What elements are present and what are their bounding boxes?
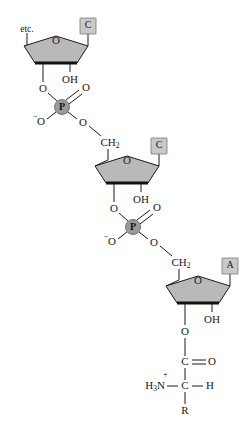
phosphate-2-ester-oxygen-upper: O (110, 202, 118, 214)
phosphate-1-bond-upper (48, 93, 57, 101)
methylene-label-3: CH2 (171, 256, 190, 270)
phosphate-2-double-bond-b (140, 214, 153, 224)
aminoacyl-carbonyl-oxygen: O (208, 355, 216, 367)
phosphate-1-double-bonded-oxygen: O (82, 81, 90, 93)
base-label-1: C (85, 19, 92, 30)
phosphate-2-double-bond-a (137, 210, 150, 220)
phosphate-1-group: O P O − O O (33, 81, 101, 136)
base-label-3: A (226, 259, 234, 270)
phosphate-1-double-bond-a (66, 90, 79, 100)
aminoacyl-amino-charge: + (163, 370, 168, 379)
ring-oxygen-label-2: O (123, 154, 131, 166)
base-label-2: C (156, 139, 163, 150)
nucleotide-2-group: CH2 O C OH (95, 136, 167, 205)
phosphate-2-group: O P O − O O (104, 201, 172, 256)
methylene-label-2: CH2 (100, 136, 119, 150)
chain-continuation-label: etc. (20, 24, 33, 34)
nucleotide-3-group: CH2 O A OH (166, 256, 238, 325)
nucleotide-1-group: O etc. C OH (20, 18, 96, 85)
phosphate-2-bond-anionic (118, 232, 127, 239)
hydroxyl-label-3: OH (204, 313, 220, 325)
phosphate-2-anionic-oxygen: O (108, 235, 116, 247)
nucleic-acid-structure-diagram: O etc. C OH O P O − O O (0, 0, 246, 425)
phosphate-2-bond-upper (119, 213, 128, 221)
phosphate-1-ester-oxygen-upper: O (39, 82, 47, 94)
phosphate-1-to-sugar-bond (89, 126, 101, 136)
aminoacyl-alpha-carbon: C (181, 379, 188, 391)
aminoacyl-ester-oxygen: O (181, 325, 189, 337)
phosphate-1-double-bond-b (69, 94, 82, 104)
phosphate-1-bond-lower (68, 112, 77, 119)
phosphate-2-double-bonded-oxygen: O (153, 201, 161, 213)
phosphate-1-anionic-oxygen: O (37, 115, 45, 127)
aminoacyl-amino-group: H3N (145, 379, 165, 393)
phosphorus-label-2: P (130, 221, 136, 232)
aminoacyl-alpha-hydrogen: H (206, 379, 214, 391)
phosphorus-label-1: P (59, 101, 65, 112)
phosphate-2-to-sugar-bond (160, 246, 172, 256)
phosphate-1-bond-anionic (47, 112, 56, 119)
phosphate-1-ester-oxygen-lower: O (79, 116, 87, 128)
diagram-canvas: O etc. C OH O P O − O O (0, 0, 246, 425)
aminoacyl-group: O C O C H H3N + R (145, 325, 216, 416)
ring-oxygen-label-3: O (194, 274, 202, 286)
aminoacyl-side-chain: R (181, 404, 189, 416)
aminoacyl-carbonyl-carbon: C (181, 355, 188, 367)
ring-oxygen-label-1: O (52, 34, 60, 46)
phosphate-2-ester-oxygen-lower: O (150, 236, 158, 248)
phosphate-2-bond-lower (139, 232, 148, 239)
hydroxyl-label-2: OH (133, 193, 149, 205)
hydroxyl-label-1: OH (62, 73, 78, 85)
